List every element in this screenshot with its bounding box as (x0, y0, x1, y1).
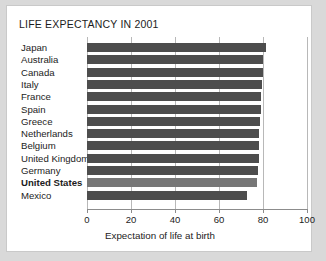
category-label: Belgium (7, 140, 81, 151)
bar (87, 154, 259, 163)
bar (87, 141, 259, 150)
bar (87, 92, 261, 101)
plot-area (87, 37, 307, 209)
bar (87, 191, 247, 200)
bar (87, 129, 259, 138)
gridline (263, 37, 264, 209)
x-tick (263, 209, 264, 213)
chart-title: LIFE EXPECTANCY IN 2001 (19, 18, 159, 30)
plot-wrapper: JapanAustraliaCanadaItalyFranceSpainGree… (7, 37, 313, 209)
x-tick-label: 0 (84, 214, 89, 225)
bar (87, 68, 263, 77)
x-tick (87, 209, 88, 213)
category-label: United States (7, 177, 81, 188)
category-label: United Kingdom (7, 153, 81, 164)
gridline (307, 37, 308, 209)
x-tick-label: 60 (214, 214, 225, 225)
category-label: Australia (7, 54, 81, 65)
x-tick-label: 80 (258, 214, 269, 225)
bar (87, 166, 258, 175)
x-tick-label: 100 (299, 214, 315, 225)
category-label: Canada (7, 67, 81, 78)
category-label: Spain (7, 104, 81, 115)
bar (87, 178, 257, 187)
bar (87, 105, 261, 114)
bar (87, 55, 263, 64)
bar (87, 80, 262, 89)
x-tick (307, 209, 308, 213)
x-tick-label: 40 (170, 214, 181, 225)
x-tick-label: 20 (126, 214, 137, 225)
x-tick (131, 209, 132, 213)
category-label: Mexico (7, 190, 81, 201)
category-label: Netherlands (7, 128, 81, 139)
category-label: France (7, 91, 81, 102)
category-label: Germany (7, 165, 81, 176)
x-tick (219, 209, 220, 213)
category-label: Greece (7, 116, 81, 127)
bar (87, 117, 260, 126)
x-tick (175, 209, 176, 213)
chart-figure: LIFE EXPECTANCY IN 2001 JapanAustraliaCa… (6, 5, 312, 252)
x-axis-title: Expectation of life at birth (7, 230, 313, 241)
category-label: Japan (7, 42, 81, 53)
x-axis-line (87, 209, 308, 210)
bar (87, 43, 266, 52)
category-label: Italy (7, 79, 81, 90)
